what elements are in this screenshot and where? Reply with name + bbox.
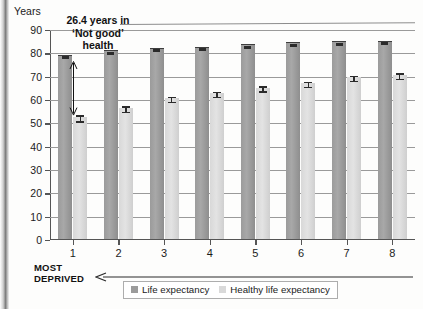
error-bar-cap-upper bbox=[350, 76, 358, 78]
y-axis-tick-label: 30 bbox=[30, 164, 42, 176]
y-axis-tick bbox=[45, 193, 50, 194]
x-axis-tick-label: 1 bbox=[70, 247, 76, 259]
y-axis-tick bbox=[45, 170, 50, 171]
y-axis-tick-label: 0 bbox=[36, 234, 42, 246]
legend-label-healthy-life-expectancy: Healthy life expectancy bbox=[230, 284, 330, 295]
bar-life-expectancy bbox=[150, 48, 164, 239]
most-deprived-line-1: MOST bbox=[34, 262, 84, 273]
bar-healthy-life-expectancy bbox=[393, 75, 407, 239]
error-bar-cap-lower bbox=[107, 53, 114, 55]
bar-healthy-life-expectancy bbox=[73, 117, 87, 239]
x-axis-tick bbox=[255, 240, 256, 245]
annotation-line-3: health bbox=[45, 39, 151, 52]
legend-swatch-icon-healthy-life-expectancy bbox=[219, 286, 226, 293]
y-axis-tick bbox=[45, 53, 50, 54]
most-deprived-label: MOST DEPRIVED bbox=[34, 262, 84, 284]
bar-life-expectancy bbox=[195, 47, 209, 239]
x-axis-tick bbox=[210, 240, 211, 245]
y-axis-tick bbox=[45, 240, 50, 241]
error-bar-cap-upper bbox=[213, 92, 221, 94]
error-bar-cap-upper bbox=[259, 86, 267, 88]
x-axis-tick bbox=[118, 240, 119, 245]
annotation-line-2: ‘Not good’ bbox=[45, 27, 151, 40]
x-axis-tick-label: 8 bbox=[389, 247, 395, 259]
x-axis-tick bbox=[347, 240, 348, 245]
error-bar-cap-upper bbox=[396, 73, 404, 75]
y-axis-title: Years bbox=[14, 5, 41, 17]
y-axis-tick-label: 90 bbox=[30, 24, 42, 36]
legend-item-healthy-life-expectancy: Healthy life expectancy bbox=[219, 284, 330, 295]
bar-healthy-life-expectancy bbox=[165, 98, 179, 239]
bar-life-expectancy bbox=[378, 41, 392, 239]
legend-swatch-icon-life-expectancy bbox=[131, 286, 138, 293]
top-rule-line bbox=[120, 22, 415, 25]
chart-page: Years 0102030405060708090 12345678 26.4 … bbox=[0, 0, 423, 309]
y-axis-tick bbox=[45, 217, 50, 218]
error-bar-cap-lower bbox=[153, 51, 160, 53]
annotation-text: 26.4 years in ‘Not good’ health bbox=[45, 14, 151, 52]
bar-life-expectancy bbox=[241, 44, 255, 239]
y-axis-line bbox=[50, 30, 51, 240]
double-headed-arrow-icon bbox=[68, 60, 79, 117]
y-axis-tick-label: 20 bbox=[30, 187, 42, 199]
x-axis-tick-label: 7 bbox=[344, 247, 350, 259]
error-bar-cap-lower bbox=[62, 58, 69, 60]
y-axis-tick-label: 60 bbox=[30, 94, 42, 106]
error-bar-cap-upper bbox=[304, 82, 312, 84]
error-bar-cap-lower bbox=[336, 44, 343, 46]
error-bar-cap-upper bbox=[168, 97, 176, 99]
error-bar-cap-lower bbox=[76, 121, 84, 123]
error-bar-cap-lower bbox=[259, 91, 267, 93]
y-axis-tick bbox=[45, 123, 50, 124]
error-bar-cap-lower bbox=[304, 87, 312, 89]
error-bar-cap-lower bbox=[122, 112, 130, 114]
y-axis-tick-label: 40 bbox=[30, 141, 42, 153]
x-axis-tick-label: 4 bbox=[207, 247, 213, 259]
bar-healthy-life-expectancy bbox=[119, 108, 133, 239]
chart-legend: Life expectancy Healthy life expectancy bbox=[123, 281, 338, 299]
plot-area: 0102030405060708090 12345678 bbox=[50, 30, 415, 240]
y-axis-tick bbox=[45, 77, 50, 78]
y-axis-tick-label: 70 bbox=[30, 71, 42, 83]
error-bar-cap-lower bbox=[199, 49, 206, 51]
error-bar-cap-upper bbox=[122, 106, 130, 108]
error-bar-cap-lower bbox=[396, 79, 404, 81]
bar-healthy-life-expectancy bbox=[347, 77, 361, 239]
x-axis-tick bbox=[164, 240, 165, 245]
legend-label-life-expectancy: Life expectancy bbox=[142, 284, 209, 295]
scanned-page-edge bbox=[0, 0, 9, 309]
x-axis-tick-label: 6 bbox=[298, 247, 304, 259]
x-axis-tick-label: 5 bbox=[252, 247, 258, 259]
error-bar-cap-lower bbox=[213, 97, 221, 99]
error-bar-cap-lower bbox=[244, 47, 251, 49]
error-bar-cap-lower bbox=[290, 45, 297, 47]
bar-life-expectancy bbox=[286, 42, 300, 239]
y-axis-tick bbox=[45, 147, 50, 148]
x-axis-tick bbox=[301, 240, 302, 245]
x-axis-tick-label: 2 bbox=[115, 247, 121, 259]
x-axis-tick bbox=[392, 240, 393, 245]
annotation-line-1: 26.4 years in bbox=[45, 14, 151, 27]
y-axis-tick-label: 80 bbox=[30, 47, 42, 59]
x-axis-tick bbox=[73, 240, 74, 245]
y-axis-tick-label: 10 bbox=[30, 211, 42, 223]
bar-healthy-life-expectancy bbox=[210, 93, 224, 239]
y-axis-tick bbox=[45, 100, 50, 101]
error-bar-cap-lower bbox=[168, 102, 176, 104]
legend-item-life-expectancy: Life expectancy bbox=[131, 284, 209, 295]
x-axis-tick-label: 3 bbox=[161, 247, 167, 259]
error-bar-cap-lower bbox=[381, 44, 388, 46]
error-bar-cap-lower bbox=[350, 81, 358, 83]
y-axis-tick-label: 50 bbox=[30, 117, 42, 129]
bar-healthy-life-expectancy bbox=[256, 88, 270, 239]
most-deprived-line-2: DEPRIVED bbox=[34, 273, 84, 284]
bar-life-expectancy bbox=[104, 50, 118, 239]
bar-life-expectancy bbox=[332, 41, 346, 239]
bar-healthy-life-expectancy bbox=[301, 83, 315, 239]
